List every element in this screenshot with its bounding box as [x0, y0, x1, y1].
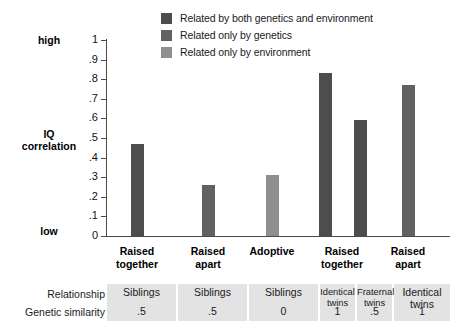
category-label-line: apart [163, 258, 253, 271]
row-label-genetic-similarity: Genetic similarity [0, 306, 105, 318]
bar [131, 144, 144, 236]
table-cell-genetic-similarity: .5 [107, 306, 176, 318]
table-cell-relationship: Siblings [249, 287, 318, 299]
bar [402, 85, 415, 236]
bar [202, 185, 215, 236]
table-cell: Fraternal twins.5 [357, 284, 392, 321]
table-cell: Siblings.5 [178, 284, 247, 321]
iq-correlation-figure: Related by both genetics and environment… [0, 0, 456, 333]
category-label-line: apart [363, 258, 453, 271]
table-cell-genetic-similarity: 1 [394, 306, 450, 318]
plot-area: 1.9.8.7.6.5.4.3.2.10 high low IQ correla… [0, 0, 456, 260]
table-cell-genetic-similarity: .5 [357, 306, 392, 318]
bar [266, 175, 279, 236]
table-cell-relationship: Siblings [178, 287, 247, 299]
table-cell-genetic-similarity: .5 [178, 306, 247, 318]
table-cell: Siblings0 [249, 284, 318, 321]
bar [319, 73, 332, 236]
table-cell: Identical twins1 [320, 284, 355, 321]
bars-container [0, 0, 456, 236]
table-cell-genetic-similarity: 0 [249, 306, 318, 318]
table-cell: Identical twins1 [394, 284, 450, 321]
row-label-relationship: Relationship [0, 288, 105, 300]
category-labels: RaisedtogetherRaisedapartAdoptiveRaisedt… [0, 243, 456, 275]
y-axis-tick-mark [101, 236, 106, 237]
table-cell-relationship: Siblings [107, 287, 176, 299]
category-label: Raisedapart [363, 245, 453, 270]
category-label-line: Raised [363, 245, 453, 258]
bar [354, 120, 367, 236]
table-cell: Siblings.5 [107, 284, 176, 321]
x-axis-line [106, 236, 450, 237]
table-cell-genetic-similarity: 1 [320, 306, 355, 318]
